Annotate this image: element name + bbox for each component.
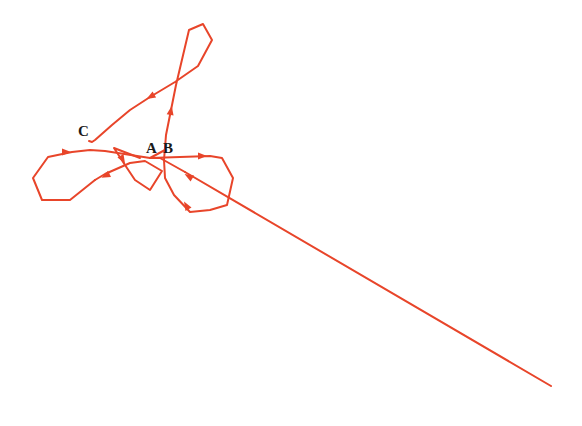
incoming-tail-segment (185, 172, 551, 386)
arrow-icon (62, 149, 71, 156)
arrow-icon (198, 153, 207, 160)
label-a: A (146, 140, 157, 156)
label-b: B (163, 140, 173, 156)
trajectory-path (33, 24, 551, 386)
trajectory-diagram: ABC (0, 0, 582, 426)
right-loop-segment (150, 156, 233, 212)
label-c: C (78, 123, 89, 139)
